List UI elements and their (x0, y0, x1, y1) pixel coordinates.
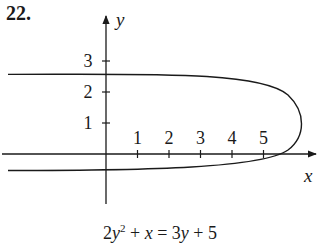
x-tick-label-4: 4 (228, 128, 237, 148)
eq-var3: y (181, 223, 189, 243)
eq-op2: + (189, 223, 208, 243)
x-tick-label-3: 3 (196, 128, 205, 148)
x-axis-label: x (303, 165, 313, 186)
y-tick-label-2: 2 (84, 82, 93, 102)
y-tick-label-1: 1 (84, 113, 93, 133)
x-tick-label-2: 2 (165, 128, 174, 148)
y-axis-label: y (114, 9, 125, 30)
eq-op1: + (126, 223, 145, 243)
eq-equals: = (153, 223, 172, 243)
x-tick-label-1: 1 (133, 128, 142, 148)
eq-var1: y (112, 223, 120, 243)
equation-label: 2y2 + x = 3y + 5 (0, 222, 320, 244)
x-tick-label-5: 5 (259, 128, 268, 148)
eq-const: 5 (208, 223, 217, 243)
y-tick-label-3: 3 (84, 51, 93, 71)
parabola-curve (8, 74, 302, 170)
eq-coef1: 2 (103, 223, 112, 243)
eq-var2: x (145, 223, 153, 243)
parabola-plot: 1 2 3 4 5 1 2 3 y x (0, 0, 320, 215)
eq-coef2: 3 (172, 223, 181, 243)
